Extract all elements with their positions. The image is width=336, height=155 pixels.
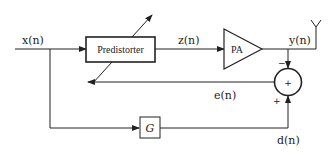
input-signal-label: x(n) — [22, 34, 44, 47]
power-amplifier-block: PA — [224, 29, 262, 69]
antenna-icon — [311, 20, 321, 27]
summer-minus-sign: − — [278, 58, 286, 68]
predistorted-signal-label: z(n) — [178, 34, 199, 47]
gain-label: G — [146, 122, 155, 135]
predistortion-block-diagram: x(n) Predistorter z(n) PA y(n) − + — [0, 0, 336, 155]
predistorter-label: Predistorter — [97, 44, 144, 55]
predistorter-block: Predistorter — [86, 37, 155, 62]
pa-label: PA — [231, 44, 244, 55]
output-signal-label: y(n) — [288, 34, 311, 47]
summing-junction: + — [275, 69, 302, 96]
summer-plus-sign: + — [273, 96, 281, 106]
desired-signal-label: d(n) — [277, 134, 300, 147]
error-signal-label: e(n) — [214, 89, 236, 102]
gain-block: G — [140, 117, 160, 138]
summer-plus-glyph: + — [284, 78, 292, 88]
